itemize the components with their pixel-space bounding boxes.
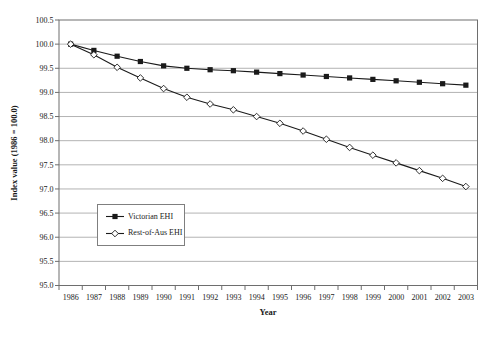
- plot-area: 100.5100.099.599.098.598.097.597.096.596…: [0, 0, 503, 337]
- x-tick-label: 1993: [225, 293, 241, 302]
- x-tick-label: 1992: [202, 293, 218, 302]
- filled-square-marker: [184, 66, 189, 71]
- x-tick-label: 1996: [295, 293, 311, 302]
- filled-square-marker: [463, 83, 468, 88]
- open-diamond-marker: [323, 136, 330, 143]
- x-tick-label: 2002: [435, 293, 451, 302]
- legend-label-rest-of-aus-ehi: Rest-of-Aus EHI: [128, 229, 182, 237]
- filled-square-marker-icon: [105, 212, 125, 221]
- filled-square-marker: [231, 68, 236, 73]
- y-tick-label: 97.5: [40, 161, 54, 170]
- x-tick-label: 2003: [458, 293, 474, 302]
- open-diamond-marker: [114, 64, 121, 71]
- filled-square-marker: [208, 67, 213, 72]
- y-tick-label: 96.5: [40, 209, 54, 218]
- open-diamond-marker: [277, 120, 284, 127]
- y-tick-label: 99.0: [40, 88, 54, 97]
- y-tick-label: 100.5: [36, 16, 54, 25]
- filled-square-marker: [112, 214, 117, 219]
- y-tick-label: 96.0: [40, 233, 54, 242]
- legend: Victorian EHI Rest-of-Aus EHI: [97, 204, 185, 246]
- x-tick-label: 2001: [411, 293, 427, 302]
- open-diamond-marker: [160, 85, 167, 92]
- open-diamond-marker: [370, 152, 377, 159]
- filled-square-marker: [254, 70, 259, 75]
- y-tick-label: 95.0: [40, 281, 54, 290]
- legend-entry-victorian-ehi: Victorian EHI: [105, 212, 184, 221]
- open-diamond-marker: [207, 101, 214, 108]
- filled-square-marker: [161, 63, 166, 68]
- x-tick-label: 1991: [179, 293, 195, 302]
- filled-square-marker: [277, 71, 282, 76]
- open-diamond-marker: [300, 128, 307, 135]
- filled-square-marker: [138, 59, 143, 64]
- y-tick-label: 100.0: [36, 40, 54, 49]
- x-tick-label: 1987: [86, 293, 102, 302]
- open-diamond-marker: [137, 75, 144, 82]
- series-line-victorian-ehi: [71, 44, 466, 85]
- y-tick-label: 98.0: [40, 136, 54, 145]
- filled-square-marker: [324, 74, 329, 79]
- open-diamond-marker: [184, 94, 191, 101]
- y-tick-label: 95.5: [40, 257, 54, 266]
- filled-square-marker: [417, 80, 422, 85]
- y-tick-label: 97.0: [40, 185, 54, 194]
- filled-square-marker: [394, 78, 399, 83]
- filled-square-marker: [440, 81, 445, 86]
- x-tick-label: 1989: [132, 293, 148, 302]
- x-tick-label: 1986: [63, 293, 79, 302]
- y-axis-title: Index value (1986 = 100.0): [9, 105, 19, 200]
- legend-entry-rest-of-aus-ehi: Rest-of-Aus EHI: [105, 229, 184, 238]
- open-diamond-marker: [346, 144, 353, 151]
- x-tick-label: 1994: [249, 293, 265, 302]
- x-tick-label: 2000: [388, 293, 404, 302]
- y-tick-label: 99.5: [40, 64, 54, 73]
- filled-square-marker: [370, 77, 375, 82]
- open-diamond-marker: [230, 106, 237, 113]
- open-diamond-marker-icon: [105, 229, 125, 238]
- x-axis-title: Year: [260, 307, 277, 317]
- filled-square-marker: [347, 75, 352, 80]
- open-diamond-marker: [416, 167, 423, 174]
- legend-label-victorian-ehi: Victorian EHI: [128, 213, 173, 221]
- open-diamond-marker: [112, 230, 119, 237]
- x-tick-label: 1998: [342, 293, 358, 302]
- x-tick-label: 1997: [318, 293, 334, 302]
- x-tick-label: 1988: [109, 293, 125, 302]
- x-tick-label: 1990: [156, 293, 172, 302]
- line-chart-figure: 100.5100.099.599.098.598.097.597.096.596…: [0, 0, 503, 337]
- open-diamond-marker: [439, 175, 446, 182]
- open-diamond-marker: [253, 113, 260, 120]
- filled-square-marker: [301, 72, 306, 77]
- y-tick-label: 98.5: [40, 112, 54, 121]
- x-tick-label: 1999: [365, 293, 381, 302]
- filled-square-marker: [115, 54, 120, 59]
- x-tick-label: 1995: [272, 293, 288, 302]
